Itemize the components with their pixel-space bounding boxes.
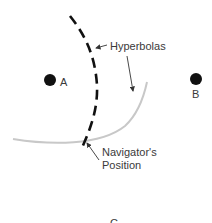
hyperbolas-label: Hyperbolas <box>110 40 166 52</box>
navigator-label-line2: Position <box>102 159 141 171</box>
hyperbolas-arrow-long <box>127 56 133 91</box>
hyperbola-dashed <box>70 16 97 150</box>
hyperbola-solid <box>13 82 147 143</box>
station-b-label: B <box>192 88 199 100</box>
station-b-dot <box>190 73 202 85</box>
diagram-canvas <box>0 0 212 223</box>
station-a-label: A <box>60 76 67 88</box>
station-a-dot <box>44 74 56 86</box>
navigator-label-line1: Navigator's <box>102 146 157 158</box>
station-c-label: C <box>110 217 118 223</box>
hyperbolas-arrow-short <box>96 45 107 48</box>
navigator-arrow <box>87 143 99 160</box>
